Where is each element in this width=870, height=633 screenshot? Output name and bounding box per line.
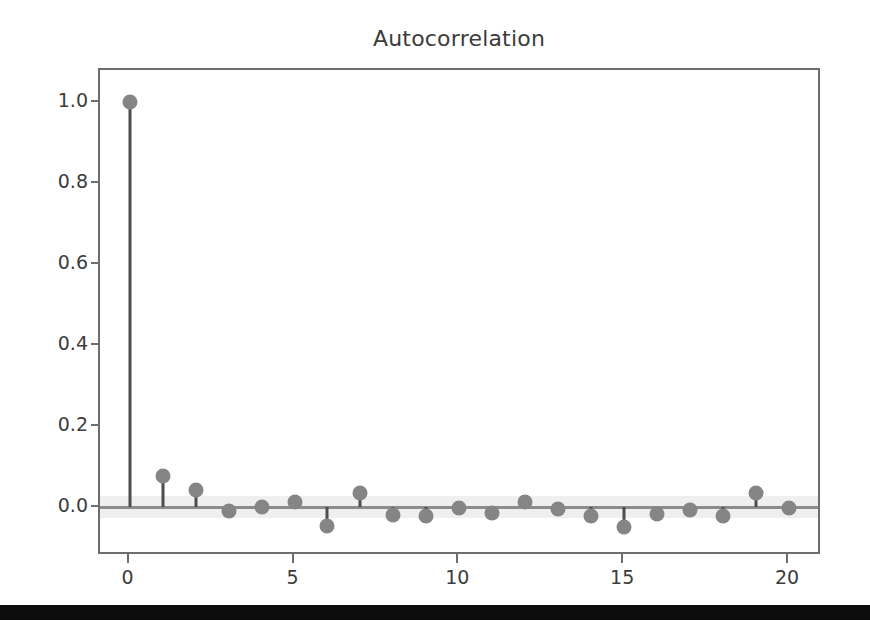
x-tick-mark xyxy=(127,554,129,563)
y-tick-label: 0.2 xyxy=(34,413,88,435)
y-tick-label: 0.0 xyxy=(34,494,88,516)
acf-marker xyxy=(584,509,599,524)
acf-marker xyxy=(452,501,467,516)
chart-title: Autocorrelation xyxy=(98,26,820,51)
x-tick-mark xyxy=(786,554,788,563)
x-tick-label: 5 xyxy=(286,566,298,588)
acf-marker xyxy=(221,503,236,518)
acf-marker xyxy=(188,482,203,497)
y-tick-label: 0.6 xyxy=(34,251,88,273)
footer-black-bar xyxy=(0,605,870,620)
x-tick-mark xyxy=(456,554,458,563)
x-tick-label: 15 xyxy=(610,566,634,588)
acf-marker xyxy=(155,468,170,483)
screenshot-page: Autocorrelation 0.00.20.40.60.81.0 05101… xyxy=(0,0,870,633)
x-tick-label: 20 xyxy=(775,566,799,588)
acf-marker xyxy=(716,508,731,523)
acf-marker xyxy=(485,506,500,521)
x-tick-mark xyxy=(292,554,294,563)
x-tick-label: 0 xyxy=(122,566,134,588)
acf-marker xyxy=(617,519,632,534)
y-tick-label: 0.8 xyxy=(34,170,88,192)
x-tick-mark xyxy=(621,554,623,563)
x-tick-label: 10 xyxy=(445,566,469,588)
acf-marker xyxy=(287,495,302,510)
acf-marker xyxy=(551,501,566,516)
plot-area xyxy=(98,68,820,554)
acf-marker xyxy=(518,494,533,509)
acf-marker xyxy=(254,499,269,514)
acf-marker xyxy=(683,503,698,518)
acf-marker xyxy=(782,501,797,516)
acf-marker xyxy=(353,486,368,501)
y-tick-label: 0.4 xyxy=(34,332,88,354)
acf-marker xyxy=(419,508,434,523)
acf-marker xyxy=(749,486,764,501)
acf-stem xyxy=(128,102,131,507)
acf-marker xyxy=(122,95,137,110)
y-tick-label: 1.0 xyxy=(34,89,88,111)
autocorrelation-figure: Autocorrelation 0.00.20.40.60.81.0 05101… xyxy=(0,0,870,600)
acf-marker xyxy=(386,507,401,522)
acf-marker xyxy=(650,507,665,522)
acf-marker xyxy=(320,519,335,534)
